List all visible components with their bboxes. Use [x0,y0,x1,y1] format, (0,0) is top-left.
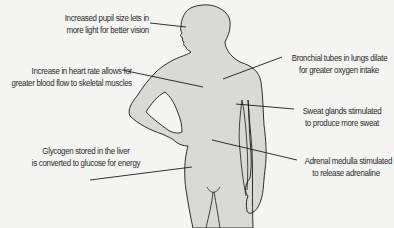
annotation-pupil: Increased pupil size lets in more light … [65,12,149,36]
body-response-diagram: Increased pupil size lets in more light … [0,0,394,228]
annotation-bronchial: Bronchial tubes in lungs dilate for grea… [292,52,387,76]
annotation-line: Increase in heart rate allows for [12,65,132,77]
annotation-line: more light for better vision [65,24,149,36]
annotation-line: Adrenal medulla stimulated [305,155,388,167]
annotation-line: Increased pupil size lets in [65,12,149,24]
annotation-line: for greater oxygen intake [292,64,387,76]
annotation-glycogen: Glycogen stored in the liver is converte… [31,145,141,169]
annotation-line: Glycogen stored in the liver [31,145,141,157]
annotation-line: to release adrenaline [305,167,388,179]
leader-pupil [150,23,186,27]
annotation-line: Sweat glands stimulated [301,105,384,117]
annotation-line: to produce more sweat [301,117,384,129]
annotation-line: greater blood flow to skeletal muscles [12,77,132,89]
annotation-heart: Increase in heart rate allows for greate… [12,65,132,89]
annotation-line: is converted to glucose for energy [31,157,141,169]
annotation-line: Bronchial tubes in lungs dilate [292,52,387,64]
annotation-adrenal: Adrenal medulla stimulated to release ad… [305,155,388,179]
annotation-sweat: Sweat glands stimulated to produce more … [301,105,384,129]
